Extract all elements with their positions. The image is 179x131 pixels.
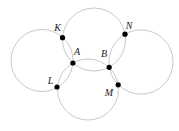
point-dot-K (60, 35, 65, 40)
point-dot-B (107, 65, 112, 70)
point-dot-L (54, 84, 59, 89)
point-dot-N (122, 32, 127, 37)
point-dot-M (116, 82, 121, 87)
point-label-L: L (47, 75, 54, 86)
point-dot-A (70, 60, 75, 65)
point-label-K: K (53, 22, 62, 33)
diagram-canvas: KNABLM (0, 0, 179, 131)
geometry-figure: KNABLM (0, 0, 179, 131)
point-label-B: B (101, 48, 107, 59)
point-label-N: N (125, 20, 134, 31)
point-label-A: A (73, 46, 81, 57)
point-label-M: M (104, 87, 114, 98)
